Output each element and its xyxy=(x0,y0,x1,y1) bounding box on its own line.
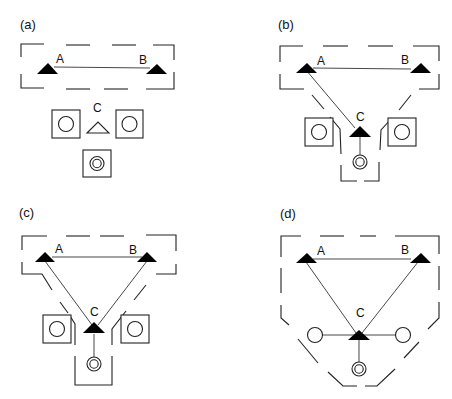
node-label-c: C xyxy=(356,306,365,320)
module-circle-icon xyxy=(128,322,143,337)
module-circle-icon xyxy=(395,125,410,140)
node-label-b: B xyxy=(401,243,409,257)
double-circle-inner-icon xyxy=(355,365,363,373)
node-b-icon xyxy=(410,253,431,263)
link-a-b xyxy=(313,68,411,69)
node-b-icon xyxy=(146,64,167,74)
node-label-b: B xyxy=(129,243,137,257)
node-label-a: A xyxy=(56,52,64,66)
panel-c: (c) A B C xyxy=(19,205,176,385)
node-label-c: C xyxy=(93,101,102,115)
diagram-figure: (a) A B C (b) xyxy=(0,0,452,399)
node-label-a: A xyxy=(317,54,325,68)
panel-label-c: (c) xyxy=(19,205,34,220)
module-circle-icon xyxy=(50,322,65,337)
panel-label-d: (d) xyxy=(280,206,296,221)
panel-b: (b) A B C xyxy=(278,17,439,181)
node-b-icon xyxy=(410,63,431,73)
node-a-icon xyxy=(37,63,58,74)
node-label-c: C xyxy=(90,305,99,319)
node-label-b: B xyxy=(401,53,409,67)
module-circle-icon xyxy=(122,117,137,132)
panel-label-b: (b) xyxy=(278,17,294,32)
boundary-outline xyxy=(21,44,174,89)
double-circle-inner-icon xyxy=(356,158,364,166)
module-circle-icon xyxy=(59,117,74,132)
node-label-a: A xyxy=(317,244,325,258)
node-label-c: C xyxy=(356,110,365,124)
double-circle-inner-icon xyxy=(90,360,98,368)
module-circle-icon xyxy=(396,328,411,343)
panel-a: (a) A B C xyxy=(20,17,174,177)
node-c-icon xyxy=(83,322,105,333)
module-circle-icon xyxy=(308,328,323,343)
panel-label-a: (a) xyxy=(20,17,36,32)
link-b-c xyxy=(362,262,418,333)
panel-d: (d) A B C xyxy=(280,206,439,386)
link-a-b xyxy=(54,67,150,68)
link-a-c xyxy=(306,262,356,333)
node-a-icon xyxy=(296,253,317,263)
node-label-a: A xyxy=(55,242,63,256)
double-circle-inner-icon xyxy=(93,159,101,167)
node-label-b: B xyxy=(139,53,147,67)
node-c-icon xyxy=(349,126,371,137)
module-circle-icon xyxy=(312,125,327,140)
node-c-open-icon xyxy=(87,122,109,133)
